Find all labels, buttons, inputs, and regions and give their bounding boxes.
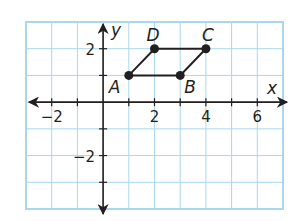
point-a (124, 71, 133, 80)
y-axis-label: y (110, 20, 122, 40)
y-tick-label: 2 (86, 41, 96, 59)
coordinate-plane: −22462−2 ABCD x y (0, 0, 299, 221)
parallelogram (129, 49, 206, 76)
tick-labels: −22462−2 (41, 41, 262, 166)
point-label-c: C (202, 25, 214, 45)
vertex-points: ABCD (108, 25, 214, 98)
point-label-d: D (147, 25, 160, 45)
point-label-a: A (108, 77, 121, 97)
y-tick-label: −2 (73, 148, 95, 166)
x-tick-label: 6 (253, 108, 263, 126)
point-c (201, 44, 210, 53)
parallelogram-abcd (129, 49, 206, 76)
x-tick-label: 4 (201, 108, 211, 126)
x-axis-label: x (266, 78, 278, 98)
x-tick-label: 2 (150, 108, 160, 126)
point-d (150, 44, 159, 53)
point-label-b: B (184, 77, 196, 97)
x-tick-label: −2 (41, 108, 63, 126)
